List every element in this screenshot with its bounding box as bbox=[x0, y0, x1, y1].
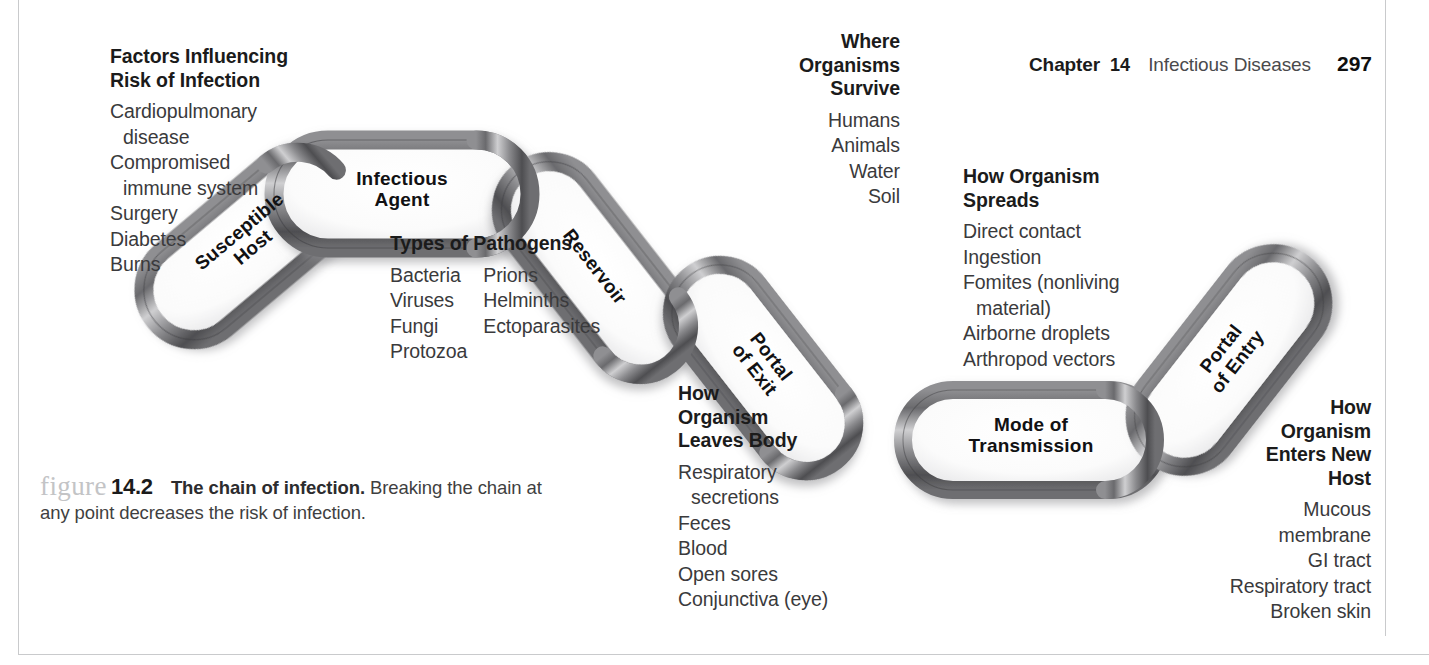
list-item: Diabetes bbox=[110, 227, 360, 253]
block-portal-of-entry-heading: How Organism Enters New Host bbox=[1138, 396, 1371, 490]
block-types-of-pathogens-heading: Types of Pathogens bbox=[390, 232, 680, 256]
list-item: Mucous bbox=[1138, 497, 1371, 523]
block-portal-of-exit-heading: How Organism Leaves Body bbox=[678, 382, 898, 453]
list-item: Prions bbox=[483, 263, 600, 289]
block-mode-of-transmission-list: Direct contact Ingestion Fomites (nonliv… bbox=[963, 219, 1193, 372]
list-item: secretions bbox=[678, 485, 898, 511]
block-reservoir-list: Humans Animals Water Soil bbox=[700, 108, 900, 210]
running-head-chapter-title: Infectious Diseases bbox=[1148, 54, 1311, 76]
list-item: Burns bbox=[110, 252, 360, 278]
block-susceptible-host-list: Cardiopulmonary disease Compromised immu… bbox=[110, 99, 360, 278]
block-susceptible-host: Factors Influencing Risk of Infection Ca… bbox=[110, 45, 360, 278]
list-item: Airborne droplets bbox=[963, 321, 1193, 347]
figure-caption: figure14.2The chain of infection. Breaki… bbox=[40, 474, 570, 525]
list-item: membrane bbox=[1138, 523, 1371, 549]
chain-link-label-infectious-agent: Infectious Agent bbox=[342, 168, 462, 210]
list-item: Feces bbox=[678, 511, 898, 537]
figure-caption-lead: The chain of infection. bbox=[171, 477, 365, 498]
block-susceptible-host-heading: Factors Influencing Risk of Infection bbox=[110, 45, 360, 92]
list-item: Broken skin bbox=[1138, 599, 1371, 625]
page-frame-bottom-rule bbox=[19, 654, 1429, 655]
block-mode-of-transmission-heading: How Organism Spreads bbox=[963, 165, 1193, 212]
list-item: Soil bbox=[700, 184, 900, 210]
list-item: Cardiopulmonary bbox=[110, 99, 360, 125]
list-item: Fomites (nonliving bbox=[963, 270, 1193, 296]
list-item: Helminths bbox=[483, 288, 600, 314]
list-item: Humans bbox=[700, 108, 900, 134]
chain-link-label-mode-of-transmission: Mode of Transmission bbox=[956, 414, 1106, 456]
figure-caption-label: figure bbox=[40, 471, 107, 501]
list-item: Ectoparasites bbox=[483, 314, 600, 340]
block-portal-of-exit: How Organism Leaves Body Respiratory sec… bbox=[678, 382, 898, 613]
pathogens-columns: Bacteria Viruses Fungi Protozoa Prions H… bbox=[390, 263, 680, 365]
list-item: Arthropod vectors bbox=[963, 347, 1193, 373]
list-item: Conjunctiva (eye) bbox=[678, 587, 898, 613]
textbook-page: Susceptible Host Infectious Agent Reserv… bbox=[0, 0, 1429, 665]
pathogens-column-left: Bacteria Viruses Fungi Protozoa bbox=[390, 263, 467, 365]
page-number: 297 bbox=[1337, 52, 1372, 76]
block-types-of-pathogens: Types of Pathogens Bacteria Viruses Fung… bbox=[390, 232, 680, 365]
list-item: Protozoa bbox=[390, 339, 467, 365]
block-portal-of-entry: How Organism Enters New Host Mucous memb… bbox=[1138, 396, 1371, 625]
running-head: Chapter 14 Infectious Diseases 297 bbox=[1029, 52, 1372, 76]
list-item: Water bbox=[700, 159, 900, 185]
block-portal-of-exit-list: Respiratory secretions Feces Blood Open … bbox=[678, 460, 898, 613]
list-item: Blood bbox=[678, 536, 898, 562]
list-item: Viruses bbox=[390, 288, 467, 314]
list-item: Respiratory bbox=[678, 460, 898, 486]
running-head-chapter-number: 14 bbox=[1110, 55, 1130, 76]
page-frame-left-rule bbox=[18, 0, 19, 655]
list-item: disease bbox=[110, 125, 360, 151]
list-item: material) bbox=[963, 296, 1193, 322]
list-item: Open sores bbox=[678, 562, 898, 588]
list-item: Surgery bbox=[110, 201, 360, 227]
list-item: Ingestion bbox=[963, 245, 1193, 271]
list-item: Compromised bbox=[110, 150, 360, 176]
list-item: Respiratory tract bbox=[1138, 574, 1371, 600]
list-item: immune system bbox=[110, 176, 360, 202]
page-frame-right-rule bbox=[1385, 0, 1386, 636]
list-item: Direct contact bbox=[963, 219, 1193, 245]
list-item: Animals bbox=[700, 133, 900, 159]
running-head-chapter-word: Chapter bbox=[1029, 54, 1100, 76]
block-reservoir-heading: Where Organisms Survive bbox=[700, 30, 900, 101]
pathogens-column-right: Prions Helminths Ectoparasites bbox=[483, 263, 600, 365]
list-item: GI tract bbox=[1138, 548, 1371, 574]
block-mode-of-transmission: How Organism Spreads Direct contact Inge… bbox=[963, 165, 1193, 372]
figure-caption-number: 14.2 bbox=[111, 474, 153, 499]
list-item: Fungi bbox=[390, 314, 467, 340]
block-portal-of-entry-list: Mucous membrane GI tract Respiratory tra… bbox=[1138, 497, 1371, 625]
list-item: Bacteria bbox=[390, 263, 467, 289]
block-reservoir: Where Organisms Survive Humans Animals W… bbox=[700, 30, 900, 210]
